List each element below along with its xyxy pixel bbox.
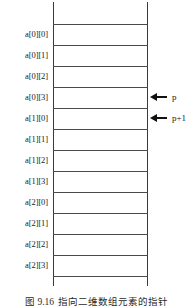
cell-label-a00: a[0][0]: [25, 30, 48, 39]
pointer-marker-p-plus-1: p+1: [150, 112, 186, 124]
cell-divider: [53, 129, 148, 130]
cell-divider: [53, 255, 148, 256]
cell-label-a20: a[2][0]: [25, 198, 48, 207]
cell-divider: [53, 171, 148, 172]
cell-label-a12: a[1][2]: [25, 156, 48, 165]
pointer-marker-p: p: [150, 91, 177, 103]
cell-divider: [53, 108, 148, 109]
cell-divider: [53, 24, 148, 25]
cell-divider: [53, 192, 148, 193]
memory-layout-figure: a[0][0] a[0][1] a[0][2] a[0][3] a[1][0] …: [0, 0, 193, 308]
cell-divider: [53, 66, 148, 67]
cell-label-stack: a[0][0] a[0][1] a[0][2] a[0][3] a[1][0] …: [0, 0, 48, 284]
pointer-label-p-plus-1: p+1: [172, 114, 186, 123]
memory-column: [53, 2, 148, 286]
arrow-left-icon: [150, 93, 167, 102]
figure-caption: 图 9.16指向二维数组元素的指针: [0, 297, 193, 308]
cell-divider: [53, 234, 148, 235]
cell-label-a11: a[1][1]: [25, 135, 48, 144]
pointer-label-p: p: [172, 93, 177, 102]
cell-divider: [53, 45, 148, 46]
cell-label-a23: a[2][3]: [25, 261, 48, 270]
cell-divider: [53, 150, 148, 151]
cell-divider: [53, 213, 148, 214]
cell-divider: [53, 276, 148, 277]
cell-label-a13: a[1][3]: [25, 177, 48, 186]
cell-label-a10: a[1][0]: [25, 114, 48, 123]
cell-label-a21: a[2][1]: [25, 219, 48, 228]
figure-caption-text: 指向二维数组元素的指针: [58, 297, 168, 307]
figure-caption-number: 图 9.16: [25, 297, 54, 307]
cell-label-a01: a[0][1]: [25, 51, 48, 60]
cell-label-a22: a[2][2]: [25, 240, 48, 249]
arrow-left-icon: [150, 114, 167, 123]
cell-divider: [53, 87, 148, 88]
cell-label-a02: a[0][2]: [25, 72, 48, 81]
cell-label-a03: a[0][3]: [25, 93, 48, 102]
